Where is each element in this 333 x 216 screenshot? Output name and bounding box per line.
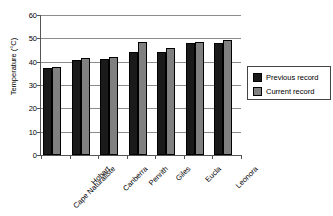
x-axis-tick	[41, 155, 42, 159]
legend-swatch-current-record	[253, 87, 262, 96]
bar-previous-record	[214, 43, 223, 155]
legend-item-previous-record: Previous record	[253, 71, 326, 83]
plot-area: 0102030405060	[40, 15, 241, 156]
x-axis-label: Leonora	[234, 164, 260, 190]
y-axis-tick-label: 50	[29, 34, 37, 43]
y-axis-tick-label: 10	[29, 127, 37, 136]
bar-previous-record	[157, 52, 166, 155]
chart-legend: Previous record Current record	[247, 66, 331, 100]
bar-current-record	[109, 57, 118, 155]
bar-previous-record	[100, 59, 109, 155]
legend-label-current-record: Current record	[266, 87, 314, 96]
bar-group	[212, 15, 241, 155]
chart-title: Heatwave	[0, 0, 240, 1]
bar-group	[155, 15, 184, 155]
bar-current-record	[81, 58, 90, 155]
y-axis-tick-label: 30	[29, 81, 37, 90]
bar-current-record	[195, 42, 204, 155]
x-axis-tick	[70, 155, 71, 159]
y-axis-title: Temperature (°C)	[9, 12, 18, 122]
bar-previous-record	[186, 43, 195, 155]
x-axis-label: Penrith	[147, 164, 170, 187]
x-axis-tick	[241, 155, 242, 159]
y-axis-tick-label: 40	[29, 57, 37, 66]
bar-group	[41, 15, 70, 155]
bar-group	[184, 15, 213, 155]
bar-previous-record	[72, 60, 81, 155]
x-axis-tick	[127, 155, 128, 159]
x-axis-label: Giles	[174, 164, 192, 182]
bar-group	[98, 15, 127, 155]
x-axis-tick	[98, 155, 99, 159]
bar-current-record	[223, 40, 232, 155]
bar-group	[127, 15, 156, 155]
x-axis-label: Canberra	[121, 164, 149, 192]
legend-swatch-previous-record	[253, 73, 262, 82]
y-axis-tick-label: 60	[29, 11, 37, 20]
bar-current-record	[52, 67, 61, 155]
legend-label-previous-record: Previous record	[266, 73, 319, 82]
bar-current-record	[166, 48, 175, 155]
bar-previous-record	[43, 68, 52, 156]
legend-item-current-record: Current record	[253, 85, 326, 97]
x-axis-label: Eucla	[203, 164, 223, 184]
x-axis-tick	[212, 155, 213, 159]
bar-current-record	[138, 42, 147, 155]
bar-previous-record	[129, 52, 138, 155]
y-axis-tick-label: 20	[29, 104, 37, 113]
bar-chart: Heatwave Temperature (°C) 0102030405060 …	[0, 0, 333, 216]
x-axis-tick	[155, 155, 156, 159]
y-axis-tick-label: 0	[33, 151, 37, 160]
x-axis-tick	[184, 155, 185, 159]
bar-group	[70, 15, 99, 155]
